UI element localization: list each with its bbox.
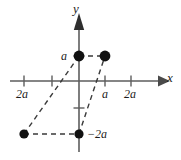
dashed-left-diagonal: [24, 56, 79, 134]
dashed-connector-group: [24, 56, 105, 134]
y-axis-label: y: [73, 2, 79, 15]
point-top-left: [74, 51, 85, 62]
x-axis-label: x: [167, 71, 173, 84]
point-bottom-center: [74, 129, 83, 138]
x-tick-label-2a: 2a: [124, 88, 136, 100]
tick-mark-group: [24, 56, 131, 108]
point-bottom-left: [19, 129, 28, 138]
data-point-group: [19, 51, 110, 139]
coordinate-diagram: x y a 2a a 2a −2a: [0, 0, 181, 160]
point-top-right: [100, 51, 111, 62]
x-tick-label-neg2a: 2a: [16, 88, 28, 100]
x-tick-label-a: a: [102, 88, 108, 100]
y-point-label-neg2a: −2a: [87, 128, 107, 140]
y-tick-label-a: a: [61, 50, 67, 62]
